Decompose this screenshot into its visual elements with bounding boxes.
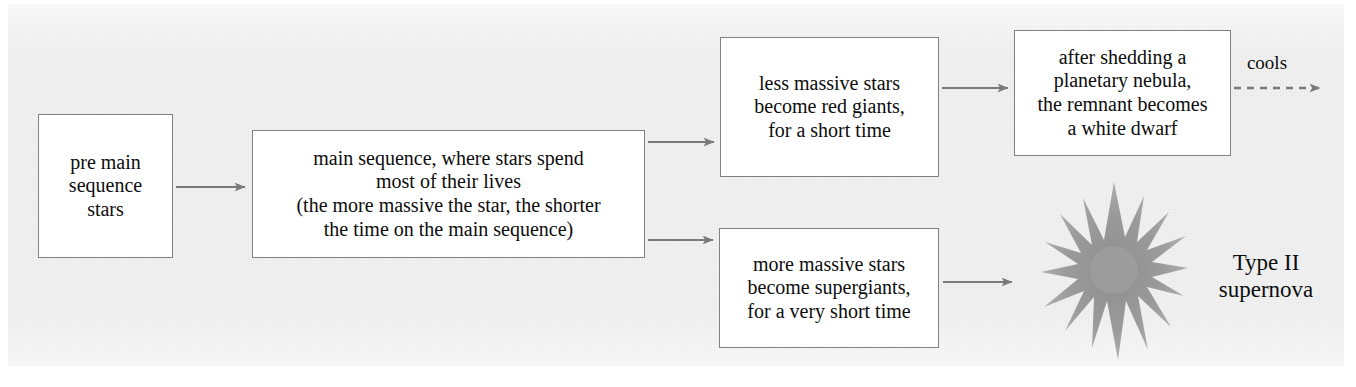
node-main-sequence: main sequence, where stars spend most of…	[252, 130, 645, 258]
node-pre-main-sequence-stars: pre main sequence stars	[38, 114, 173, 258]
node-main-sequence-label: main sequence, where stars spend most of…	[290, 147, 606, 241]
type-ii-supernova-label: Type II supernova	[1196, 249, 1336, 303]
node-white-dwarf: after shedding a planetary nebula, the r…	[1014, 30, 1231, 156]
node-white-dwarf-label: after shedding a planetary nebula, the r…	[1032, 46, 1214, 140]
flowchart-canvas: pre main sequence stars main sequence, w…	[0, 0, 1356, 387]
node-red-giants-label: less massive stars become red giants, fo…	[748, 72, 911, 143]
node-red-giants: less massive stars become red giants, fo…	[720, 37, 939, 177]
node-supergiants: more massive stars become supergiants, f…	[719, 228, 939, 348]
node-supergiants-label: more massive stars become supergiants, f…	[741, 253, 916, 324]
supernova-starburst-icon	[1041, 182, 1188, 360]
node-pre-main-sequence-label: pre main sequence stars	[63, 151, 148, 222]
cools-label: cools	[1228, 52, 1306, 74]
